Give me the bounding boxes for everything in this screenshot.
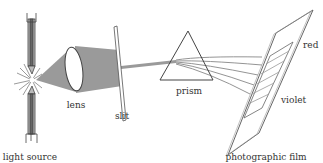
top-electrode (27, 13, 36, 74)
prism (160, 31, 213, 80)
spectrograph-diagram: lens slit prism red violet photographic … (0, 0, 323, 163)
bottom-electrode (26, 86, 37, 143)
label-slit: slit (115, 111, 129, 121)
label-prism: prism (176, 86, 203, 96)
label-violet: violet (280, 95, 307, 105)
photographic-film (226, 10, 313, 156)
label-lens: lens (67, 100, 86, 110)
label-light-source: light source (3, 152, 57, 162)
label-photographic-film: photographic film (225, 152, 307, 162)
narrow-beam (121, 60, 176, 69)
label-red: red (303, 40, 319, 50)
light-source (14, 13, 42, 143)
